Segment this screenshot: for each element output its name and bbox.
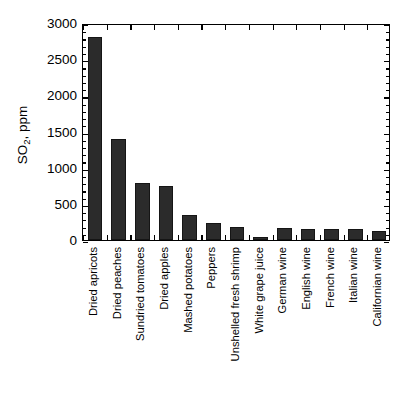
y-tick-label: 3000 — [33, 17, 77, 31]
x-tick-label: Californian wine — [373, 247, 384, 327]
x-tick-label: Italian wine — [349, 247, 360, 303]
y-tick-label: 500 — [33, 198, 77, 212]
x-axis-tick-labels: Dried apricotsDried peachesSundried toma… — [82, 241, 390, 405]
bar — [372, 231, 387, 240]
bar — [348, 229, 363, 240]
plot-area — [82, 24, 390, 241]
x-tick-label: German wine — [278, 247, 289, 314]
y-axis-tick-labels: 050010001500200025003000 — [31, 0, 77, 405]
bar — [206, 223, 221, 240]
x-tick-label: Peppers — [207, 247, 218, 289]
y-tick-label: 1500 — [33, 126, 77, 140]
bar — [135, 183, 150, 240]
so2-bar-chart-figure: SO2, ppm 050010001500200025003000 Dried … — [0, 0, 409, 405]
bar — [230, 227, 245, 240]
y-axis-title-suffix: , ppm — [15, 106, 30, 140]
x-tick-label: Dried peaches — [112, 247, 123, 319]
y-tick-label: 1000 — [33, 162, 77, 176]
bar — [324, 229, 339, 240]
y-axis-title-subscript: 2 — [21, 139, 32, 144]
x-tick-label: English wine — [301, 247, 312, 310]
x-tick-label: Dried apricots — [88, 247, 99, 316]
bar — [277, 228, 292, 240]
x-tick-label: White grape juice — [254, 247, 265, 333]
x-tick-label: Sundried tomatoes — [136, 247, 147, 341]
x-tick-label: French wine — [325, 247, 336, 308]
bar — [111, 139, 126, 240]
bar-series — [83, 25, 389, 240]
x-tick-label: Mashed potatoes — [183, 247, 194, 333]
bar — [88, 37, 103, 240]
bar — [182, 215, 197, 240]
x-tick-label: Dried apples — [159, 247, 170, 310]
bar — [301, 229, 316, 240]
bar — [159, 186, 174, 240]
y-tick-label: 2500 — [33, 53, 77, 67]
bar — [253, 237, 268, 240]
y-axis-title-prefix: SO — [15, 145, 30, 165]
y-tick-label: 0 — [33, 234, 77, 248]
x-tick-label: Unshelled fresh shrimp — [230, 247, 241, 361]
y-tick-label: 2000 — [33, 89, 77, 103]
